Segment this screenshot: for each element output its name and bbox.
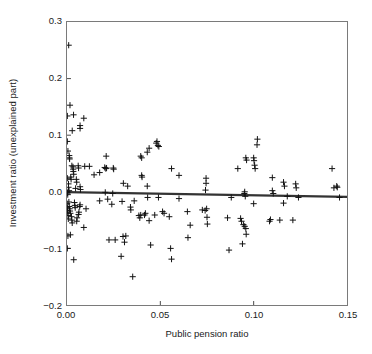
- x-tick-label: 0.15: [328, 310, 368, 320]
- y-tick-label: 0.0: [34, 187, 62, 197]
- data-point: [168, 166, 174, 172]
- data-point: [119, 198, 125, 204]
- data-point: [146, 218, 152, 224]
- data-point: [269, 188, 275, 194]
- data-point: [152, 212, 158, 218]
- data-point: [121, 239, 127, 245]
- data-point: [67, 113, 70, 119]
- y-tick-label: −0.1: [34, 244, 62, 254]
- x-axis-title: Public pension ratio: [66, 328, 348, 339]
- y-tick-label: 0.2: [34, 73, 62, 83]
- data-point: [123, 233, 129, 239]
- data-point: [67, 156, 73, 162]
- y-axis-tick-labels: −0.2−0.10.00.10.20.3: [32, 21, 62, 306]
- data-point: [81, 115, 87, 121]
- data-point: [120, 180, 126, 186]
- data-point: [69, 128, 75, 134]
- data-point: [130, 274, 136, 280]
- data-point: [254, 136, 260, 142]
- data-point: [67, 102, 73, 108]
- data-point: [168, 256, 174, 262]
- data-point: [269, 175, 275, 181]
- data-point: [284, 193, 290, 199]
- x-tick-label: 0.10: [234, 310, 274, 320]
- data-point: [110, 190, 116, 196]
- data-point: [125, 183, 131, 189]
- data-point: [106, 237, 112, 243]
- x-axis-tick-labels: 0.000.050.100.15: [66, 310, 348, 324]
- data-point: [81, 224, 87, 230]
- data-point: [131, 198, 137, 204]
- data-point: [336, 194, 342, 200]
- plot-area: [66, 21, 348, 306]
- data-point: [67, 175, 70, 181]
- data-point: [251, 158, 257, 164]
- data-point: [166, 214, 172, 220]
- data-point: [226, 247, 232, 253]
- data-point: [145, 194, 151, 200]
- data-point: [204, 214, 210, 220]
- data-point: [238, 215, 244, 221]
- data-point: [235, 166, 241, 172]
- data-point: [185, 235, 191, 241]
- data-point: [329, 166, 335, 172]
- data-point: [293, 185, 299, 191]
- y-tick-label: 0.1: [34, 130, 62, 140]
- data-point: [281, 183, 287, 189]
- data-point: [280, 179, 286, 185]
- data-point: [128, 207, 134, 213]
- regression-line: [67, 192, 347, 197]
- data-point: [111, 166, 117, 172]
- data-point: [70, 112, 76, 118]
- y-axis-title: Investment ratio (unexplained part): [3, 0, 21, 306]
- data-point: [202, 187, 208, 193]
- data-point: [243, 231, 249, 237]
- data-point: [176, 196, 182, 202]
- series-observations: [67, 42, 343, 280]
- data-point: [199, 207, 205, 213]
- data-point: [103, 166, 109, 172]
- data-point: [97, 198, 103, 204]
- data-point: [155, 194, 161, 200]
- data-point: [290, 217, 296, 223]
- data-point: [118, 253, 124, 259]
- data-point: [224, 215, 230, 221]
- data-point: [252, 166, 258, 172]
- data-point: [67, 42, 72, 48]
- data-point: [112, 237, 118, 243]
- x-tick-label: 0.00: [46, 310, 86, 320]
- data-point: [254, 142, 260, 148]
- scatter-chart-figure: Investment ratio (unexplained part) −0.2…: [0, 0, 372, 354]
- data-point: [144, 183, 150, 189]
- data-point: [168, 245, 174, 251]
- data-point: [148, 242, 154, 248]
- data-point: [83, 206, 89, 212]
- data-point: [293, 181, 299, 187]
- data-point: [91, 172, 97, 178]
- data-point: [74, 179, 80, 185]
- data-point: [251, 201, 257, 207]
- data-point: [71, 257, 77, 263]
- data-point: [109, 201, 115, 207]
- data-point: [67, 245, 70, 251]
- data-point: [204, 221, 210, 227]
- data-point: [334, 184, 340, 190]
- data-point: [120, 233, 126, 239]
- data-point: [184, 209, 190, 215]
- data-point: [277, 217, 283, 223]
- plot-svg: [67, 22, 347, 305]
- data-point: [280, 200, 286, 206]
- data-point: [97, 169, 103, 175]
- data-point: [102, 189, 108, 195]
- data-point: [252, 162, 258, 168]
- data-point: [103, 153, 109, 159]
- data-point: [86, 163, 92, 169]
- data-point: [239, 241, 245, 247]
- x-tick-label: 0.05: [140, 310, 180, 320]
- data-point: [203, 180, 209, 186]
- data-point: [67, 138, 70, 144]
- data-point: [77, 122, 83, 128]
- y-tick-label: 0.3: [34, 16, 62, 26]
- data-point: [105, 196, 111, 202]
- data-point: [69, 163, 75, 169]
